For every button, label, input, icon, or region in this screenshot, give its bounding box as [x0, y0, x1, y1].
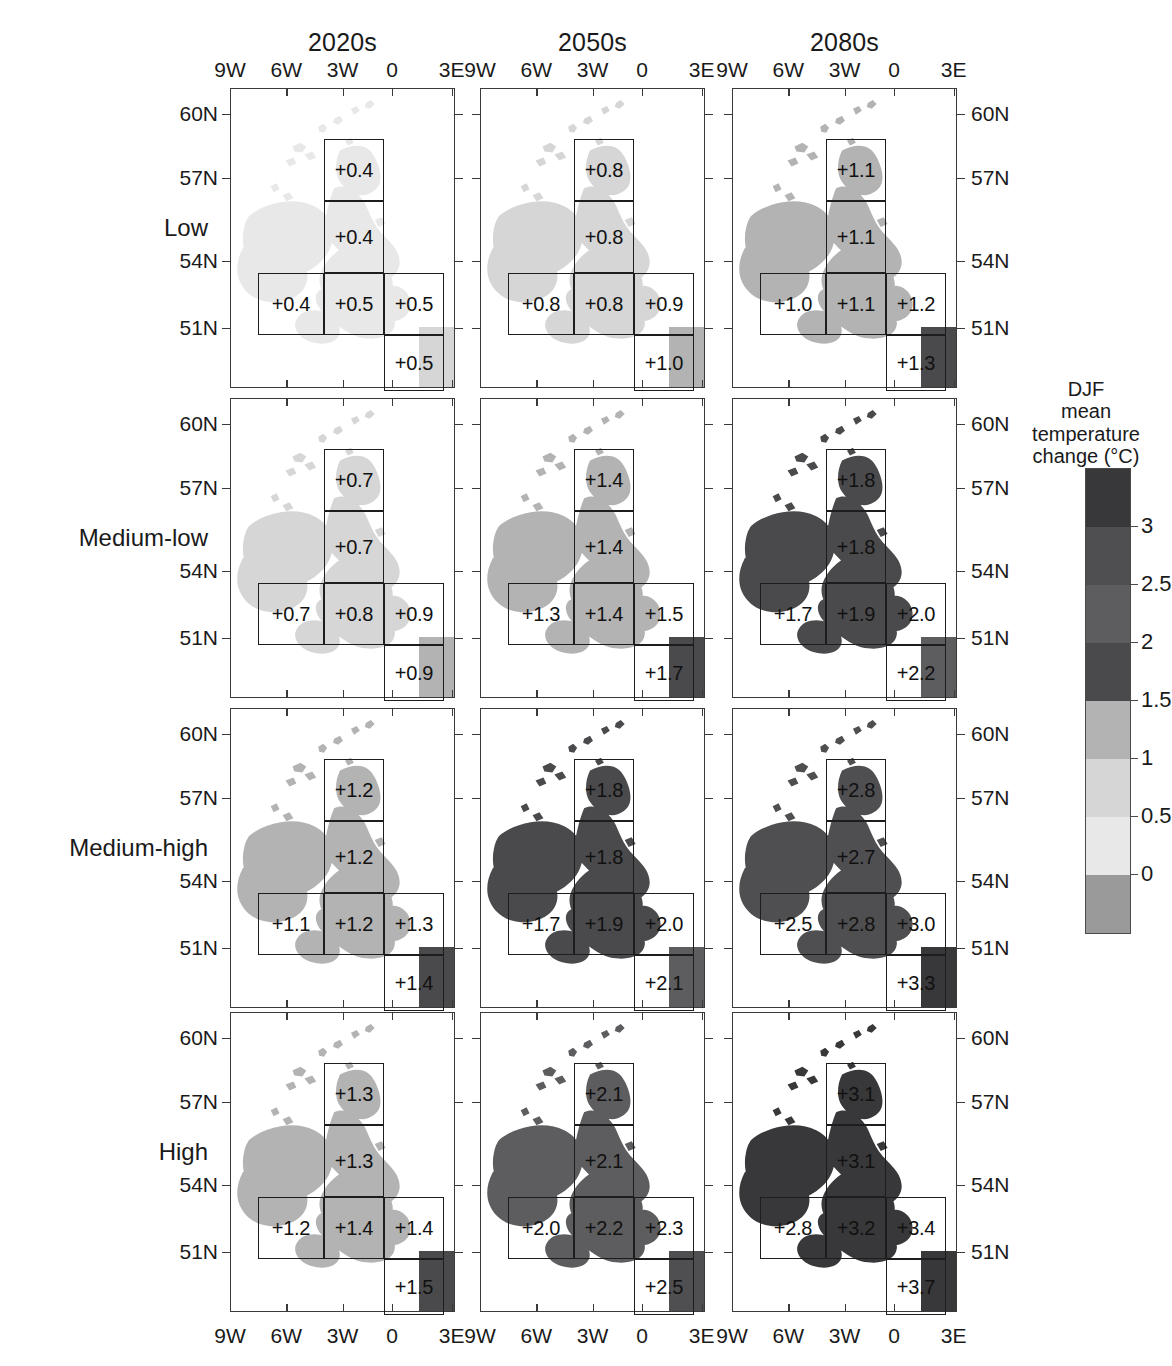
- region-value-mid: +1.4: [335, 1217, 373, 1240]
- column-title-2020s: 2020s: [230, 28, 455, 57]
- x-tick-mark: [593, 380, 594, 388]
- x-tick-mark: [536, 380, 537, 388]
- x-tick-mark: [732, 708, 733, 716]
- y-tick-mark: [472, 1185, 480, 1186]
- colorbar-tick-mark: [1131, 758, 1138, 759]
- x-tick-label-bottom: 3W: [577, 1324, 609, 1348]
- x-tick-label-top: 3W: [829, 58, 861, 82]
- x-tick-mark: [894, 708, 895, 716]
- region-value-central: +0.7: [335, 536, 373, 559]
- y-tick-label-left: 57N: [158, 166, 218, 190]
- y-tick-mark: [724, 261, 732, 262]
- x-tick-mark: [894, 88, 895, 96]
- x-tick-label-bottom: 3E: [689, 1324, 715, 1348]
- region-value-west: +1.3: [522, 603, 560, 626]
- y-tick-label-left: 54N: [158, 1173, 218, 1197]
- region-value-east: +1.3: [395, 913, 433, 936]
- x-tick-mark: [452, 690, 453, 698]
- region-value-mid: +2.2: [585, 1217, 623, 1240]
- y-tick-mark: [455, 948, 463, 949]
- x-tick-label-bottom: 3E: [941, 1324, 967, 1348]
- y-tick-label-right: 57N: [971, 1090, 1031, 1114]
- y-tick-mark: [724, 571, 732, 572]
- region-value-west: +0.8: [522, 293, 560, 316]
- y-tick-mark: [472, 881, 480, 882]
- x-tick-mark: [230, 708, 231, 716]
- x-tick-label-bottom: 3W: [327, 1324, 359, 1348]
- x-tick-mark: [954, 1304, 955, 1312]
- region-value-east: +0.5: [395, 293, 433, 316]
- x-tick-mark: [788, 1012, 789, 1020]
- y-tick-mark: [472, 638, 480, 639]
- x-tick-mark: [954, 1000, 955, 1008]
- y-tick-label-left: 51N: [158, 1240, 218, 1264]
- x-tick-mark: [788, 398, 789, 406]
- y-tick-mark: [455, 798, 463, 799]
- region-value-central: +1.8: [837, 536, 875, 559]
- y-tick-label-right: 60N: [971, 102, 1031, 126]
- colorbar: [1085, 468, 1131, 934]
- x-tick-label-top: 0: [888, 58, 900, 82]
- y-tick-mark: [455, 178, 463, 179]
- y-tick-mark: [705, 1102, 713, 1103]
- y-tick-mark: [222, 424, 230, 425]
- map-panel: +1.3+1.3+1.2+1.4+1.4+1.5: [230, 1012, 455, 1312]
- x-tick-mark: [593, 1000, 594, 1008]
- region-value-south: +2.1: [645, 972, 683, 995]
- x-tick-mark: [845, 88, 846, 96]
- y-tick-mark: [724, 798, 732, 799]
- y-tick-mark: [705, 328, 713, 329]
- x-tick-mark: [954, 690, 955, 698]
- map-panel: +3.1+3.1+2.8+3.2+3.4+3.7: [732, 1012, 957, 1312]
- y-tick-label-left: 57N: [158, 786, 218, 810]
- row-label-high: High: [0, 1138, 208, 1166]
- x-tick-mark: [894, 398, 895, 406]
- y-tick-mark: [705, 1185, 713, 1186]
- x-tick-mark: [788, 1304, 789, 1312]
- x-tick-mark: [392, 1304, 393, 1312]
- colorbar-title-line: temperature: [1010, 423, 1162, 445]
- y-tick-mark: [724, 948, 732, 949]
- y-tick-mark: [705, 734, 713, 735]
- x-tick-mark: [642, 708, 643, 716]
- x-tick-mark: [452, 380, 453, 388]
- region-value-central: +1.8: [585, 846, 623, 869]
- y-tick-label-left: 54N: [158, 559, 218, 583]
- x-tick-mark: [845, 1000, 846, 1008]
- y-tick-mark: [472, 571, 480, 572]
- region-value-north-scotland: +1.4: [585, 469, 623, 492]
- x-tick-mark: [642, 1012, 643, 1020]
- region-value-west: +1.2: [272, 1217, 310, 1240]
- region-value-south: +3.7: [897, 1276, 935, 1299]
- region-value-east: +1.5: [645, 603, 683, 626]
- y-tick-label-right: 54N: [971, 1173, 1031, 1197]
- y-tick-mark: [455, 734, 463, 735]
- x-tick-mark: [480, 1000, 481, 1008]
- x-tick-mark: [286, 380, 287, 388]
- region-value-mid: +2.8: [837, 913, 875, 936]
- x-tick-mark: [702, 380, 703, 388]
- x-tick-label-bottom: 3E: [439, 1324, 465, 1348]
- x-tick-mark: [286, 690, 287, 698]
- region-value-central: +1.3: [335, 1150, 373, 1173]
- colorbar-tick-mark: [1131, 700, 1138, 701]
- y-tick-mark: [724, 114, 732, 115]
- x-tick-label-bottom: 6W: [271, 1324, 303, 1348]
- map-panel: +0.8+0.8+0.8+0.8+0.9+1.0: [480, 88, 705, 388]
- x-tick-mark: [788, 1000, 789, 1008]
- x-tick-mark: [480, 690, 481, 698]
- x-tick-label-top: 3E: [439, 58, 465, 82]
- y-tick-mark: [455, 488, 463, 489]
- y-tick-mark: [957, 114, 965, 115]
- colorbar-segment: [1086, 817, 1130, 875]
- y-tick-mark: [705, 1038, 713, 1039]
- colorbar-tick-mark: [1131, 584, 1138, 585]
- x-tick-mark: [642, 380, 643, 388]
- y-tick-mark: [724, 1185, 732, 1186]
- x-tick-mark: [343, 398, 344, 406]
- y-tick-mark: [472, 178, 480, 179]
- region-value-north-scotland: +2.8: [837, 779, 875, 802]
- region-value-south: +0.9: [395, 662, 433, 685]
- x-tick-mark: [702, 88, 703, 96]
